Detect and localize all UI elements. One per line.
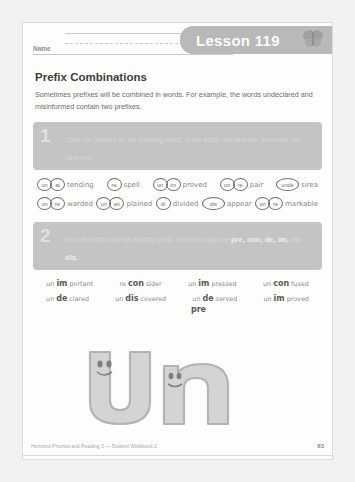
answer-word-stem: proved [287, 295, 309, 303]
section-2-prefix-last: dis. [65, 253, 78, 262]
section-1-number: 1 [40, 126, 51, 145]
section-1-words-panel: unattendingrespellunimprovedunrepairunde… [33, 175, 322, 213]
circled-prefix[interactable]: re [233, 178, 248, 191]
answer-word-stem: sider [146, 280, 162, 288]
section-2-number: 2 [40, 226, 51, 245]
answer-word-stem: covered [141, 295, 167, 303]
answer-prefix-given: un [46, 295, 54, 303]
section-2-instruction-bar: 2 Fill in the blank with the missing pre… [33, 222, 322, 270]
section-2-instruction: Fill in the blank with the missing prefi… [65, 236, 301, 261]
answer-filled-prefix[interactable]: de [56, 294, 67, 303]
word-item[interactable]: didivided [156, 197, 199, 210]
answer-prefix-given: un [263, 295, 271, 303]
answer-prefix-given: un [46, 280, 54, 288]
butterfly-icon [302, 29, 324, 49]
word-stem: divided [173, 200, 199, 208]
circled-prefix[interactable]: dis [202, 197, 225, 210]
word-item[interactable]: unexplained [96, 197, 152, 210]
circled-prefix[interactable]: ex [109, 197, 124, 210]
answer-prefix-given: un [263, 280, 271, 288]
footer-divider [23, 455, 332, 456]
section-1-instruction: Circle the prefixes for the following wo… [65, 136, 299, 161]
answer-word-stem: clared [69, 295, 89, 303]
circled-prefix[interactable]: at [50, 178, 65, 191]
word-item[interactable]: unrewarded [37, 197, 93, 210]
lesson-label: Lesson 119 [196, 32, 280, 49]
circled-prefix[interactable]: re [268, 197, 283, 210]
word-item[interactable]: undesirea [276, 178, 318, 191]
circled-prefix[interactable]: re [107, 178, 122, 191]
stray-handwritten-word: pre [75, 305, 322, 314]
answer-word-stem: fused [291, 280, 309, 288]
page-header: Name Lesson 119 [23, 23, 332, 65]
answer-filled-prefix[interactable]: con [273, 279, 289, 288]
section-1-instruction-bar: 1 Circle the prefixes for the following … [33, 122, 322, 170]
section-2-answers-panel: unimportantreconsiderunimpressedunconfus… [33, 276, 322, 314]
word-row: unattendingrespellunimprovedunrepairunde… [33, 175, 322, 194]
circled-prefix[interactable]: re [50, 197, 65, 210]
section-2-instruction-lead: Fill in the blank with the missing prefi… [65, 236, 229, 243]
answer-filled-prefix[interactable]: im [56, 279, 67, 288]
page-footer: Horizons Phonics and Reading 3 — Student… [31, 443, 324, 449]
word-stem: appear [227, 200, 252, 208]
word-item[interactable]: respell [107, 178, 140, 191]
answer-filled-prefix[interactable]: de [202, 294, 213, 303]
answer-filled-prefix[interactable]: im [274, 294, 285, 303]
word-item[interactable]: unrepair [220, 178, 264, 191]
word-stem: sirea [301, 181, 318, 189]
answer-word-stem: served [216, 295, 238, 303]
word-stem: proved [183, 181, 207, 189]
answer-word-stem: portant [69, 280, 93, 288]
answer-word-stem: pressed [211, 280, 236, 288]
answer-filled-prefix[interactable]: con [128, 279, 144, 288]
name-label: Name [33, 45, 51, 52]
answer-item[interactable]: undiscovered [115, 294, 166, 303]
word-row: unrewardedunexplaineddidivideddisappearu… [33, 194, 322, 213]
word-item[interactable]: unremarkable [255, 197, 318, 210]
word-stem: tending [67, 181, 94, 189]
answer-prefix-given: un [115, 295, 123, 303]
answer-item[interactable]: unconfused [263, 279, 309, 288]
footer-credit: Horizons Phonics and Reading 3 — Student… [31, 443, 157, 449]
word-stem: spell [124, 181, 140, 189]
word-stem: plained [126, 200, 152, 208]
worksheet-page: Name Lesson 119 Prefix Combinations Some… [22, 22, 333, 460]
answer-item[interactable]: reconsider [120, 279, 162, 288]
page-title: Prefix Combinations [35, 71, 332, 83]
answer-item[interactable]: unimproved [263, 294, 308, 303]
word-stem: pair [250, 181, 264, 189]
intro-paragraph: Sometimes prefixes will be combined in w… [35, 89, 320, 113]
big-un-letters-art [23, 343, 332, 433]
answer-item[interactable]: undeserved [192, 294, 237, 303]
section-2-instruction-tail: and [290, 236, 301, 243]
answer-filled-prefix[interactable]: dis [125, 294, 138, 303]
answer-item[interactable]: unimportant [46, 279, 93, 288]
circled-prefix[interactable]: im [166, 178, 181, 191]
answer-row: undeclaredundiscoveredundeservedunimprov… [33, 291, 322, 306]
answer-filled-prefix[interactable]: im [198, 279, 209, 288]
answer-item[interactable]: unimpressed [188, 279, 236, 288]
word-item[interactable]: unimproved [153, 178, 207, 191]
footer-page-number: 83 [317, 443, 324, 449]
section-2-prefix-list: pre, con, de, im, [231, 235, 289, 244]
circled-prefix[interactable]: di [156, 197, 171, 210]
word-item[interactable]: disappear [202, 197, 252, 210]
word-stem: warded [67, 200, 93, 208]
word-item[interactable]: unattending [37, 178, 94, 191]
circled-prefix[interactable]: unde [276, 178, 299, 191]
answer-row: unimportantreconsiderunimpressedunconfus… [33, 276, 322, 291]
answer-prefix-given: un [192, 295, 200, 303]
word-stem: markable [285, 200, 318, 208]
answer-prefix-given: un [188, 280, 196, 288]
name-rule-bottom [33, 54, 233, 55]
answer-prefix-given: re [120, 280, 126, 288]
answer-item[interactable]: undeclared [46, 294, 89, 303]
